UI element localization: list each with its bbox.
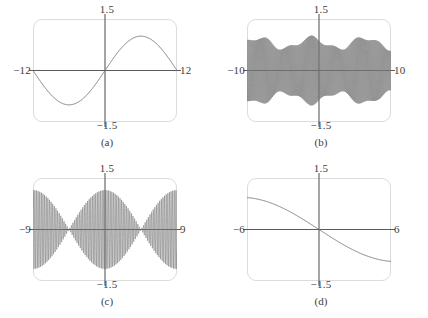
panel-b-y-max-label: 1.5 <box>214 4 428 15</box>
panel-b-y-min-label: −1.5 <box>214 120 428 131</box>
panel-c-y-max-label: 1.5 <box>0 163 214 174</box>
panel-c-x-max-label: 9 <box>180 224 212 235</box>
trig-graph-figure: 1.5 −1.5 −12 12 (a) 1.5 −1.5 −10 10 (b) … <box>0 0 428 318</box>
panel-a-frame <box>33 19 177 122</box>
panel-a-x-max-label: 12 <box>180 65 212 76</box>
panel-d-x-max-label: 6 <box>394 224 426 235</box>
panel-d-frame <box>247 178 391 281</box>
panel-c-y-min-label: −1.5 <box>0 279 214 290</box>
graph-panel-d: 1.5 −1.5 −6 6 (d) <box>214 159 428 318</box>
panel-c-frame <box>33 178 177 281</box>
panel-c-caption: (c) <box>0 296 214 307</box>
panel-b-caption: (b) <box>214 137 428 148</box>
graph-panel-b: 1.5 −1.5 −10 10 (b) <box>214 0 428 159</box>
panel-b-x-max-label: 10 <box>394 65 426 76</box>
panel-d-x-min-label: −6 <box>216 224 245 235</box>
panel-d-y-min-label: −1.5 <box>214 279 428 290</box>
panel-c-x-min-label: −9 <box>2 224 31 235</box>
panel-a-y-max-label: 1.5 <box>0 4 214 15</box>
panel-a-y-min-label: −1.5 <box>0 120 214 131</box>
graph-panel-c: 1.5 −1.5 −9 9 (c) <box>0 159 214 318</box>
panel-a-x-min-label: −12 <box>2 65 31 76</box>
panel-d-y-max-label: 1.5 <box>214 163 428 174</box>
panel-b-x-min-label: −10 <box>216 65 245 76</box>
panel-b-frame <box>247 19 391 122</box>
graph-panel-a: 1.5 −1.5 −12 12 (a) <box>0 0 214 159</box>
panel-d-caption: (d) <box>214 296 428 307</box>
panel-a-caption: (a) <box>0 137 214 148</box>
